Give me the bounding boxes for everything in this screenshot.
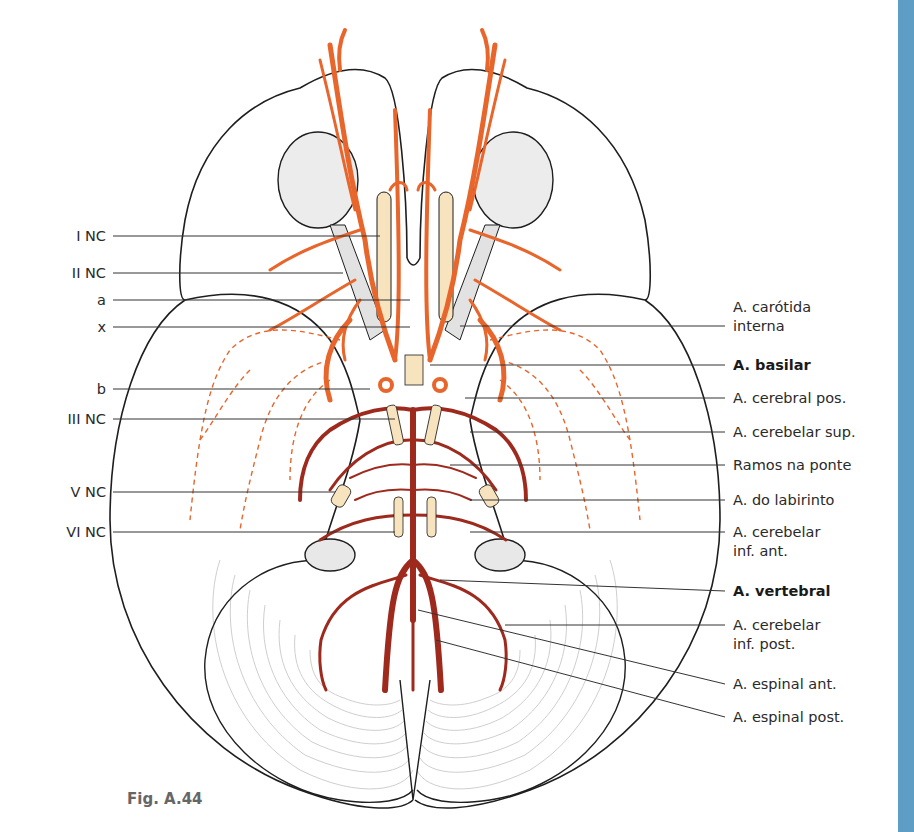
optic-nerves bbox=[330, 225, 500, 340]
figure-caption: Fig. A.44 bbox=[127, 790, 203, 808]
label-line: inf. post. bbox=[733, 635, 820, 654]
pituitary-stalk bbox=[405, 355, 423, 385]
label-cerebral-pos: A. cerebral pos. bbox=[733, 389, 846, 408]
label-ramos-ponte: Ramos na ponte bbox=[733, 456, 851, 475]
label-vertebral: A. vertebral bbox=[733, 582, 831, 601]
brain-arteries-figure: I NC II NC a x b III NC V NC VI NC A. ca… bbox=[0, 0, 898, 832]
label-line: interna bbox=[733, 317, 811, 336]
label-cerebelar-inf-post: A. cerebelar inf. post. bbox=[733, 616, 820, 654]
label-v-nc: V NC bbox=[30, 483, 106, 502]
page-edge-strip bbox=[898, 0, 914, 832]
olfactory-tracts bbox=[377, 192, 453, 322]
label-espinal-post: A. espinal post. bbox=[733, 708, 844, 727]
label-line: A. cerebelar bbox=[733, 616, 820, 635]
label-line: A. carótida bbox=[733, 298, 811, 317]
eyeballs bbox=[278, 132, 553, 228]
label-basilar: A. basilar bbox=[733, 356, 811, 375]
label-carotida-interna: A. carótida interna bbox=[733, 298, 811, 336]
label-vi-nc: VI NC bbox=[30, 523, 106, 542]
label-cerebelar-inf-ant: A. cerebelar inf. ant. bbox=[733, 523, 820, 561]
label-cerebelar-sup: A. cerebelar sup. bbox=[733, 423, 856, 442]
label-line: A. cerebelar bbox=[733, 523, 820, 542]
label-iii-nc: III NC bbox=[30, 410, 106, 429]
label-ii-nc: II NC bbox=[30, 264, 106, 283]
label-line: inf. ant. bbox=[733, 542, 820, 561]
label-espinal-ant: A. espinal ant. bbox=[733, 675, 837, 694]
label-a: a bbox=[30, 291, 106, 310]
label-i-nc: I NC bbox=[30, 227, 106, 246]
label-labirinto: A. do labirinto bbox=[733, 491, 834, 510]
label-x: x bbox=[30, 318, 106, 337]
label-b: b bbox=[30, 380, 106, 399]
